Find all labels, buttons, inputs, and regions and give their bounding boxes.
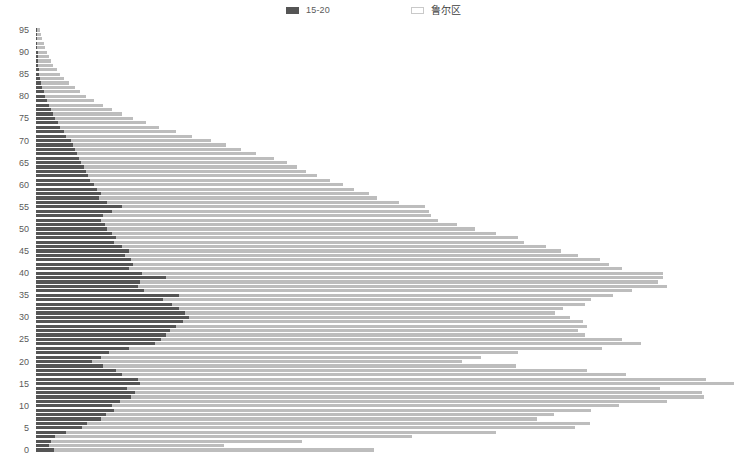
bar-row[interactable] (36, 272, 663, 275)
bar-row[interactable] (36, 413, 554, 416)
bar-row[interactable] (36, 64, 53, 67)
bar-row[interactable] (36, 219, 438, 222)
bar-row[interactable] (36, 351, 518, 354)
bar-row[interactable] (36, 42, 44, 45)
bar-row[interactable] (36, 33, 41, 36)
bar-row[interactable] (36, 90, 80, 93)
bar-row[interactable] (36, 205, 425, 208)
bar-row[interactable] (36, 360, 462, 363)
bar-row[interactable] (36, 130, 176, 133)
bar-row[interactable] (36, 342, 641, 345)
bar-row[interactable] (36, 86, 75, 89)
bar-row[interactable] (36, 254, 578, 257)
bar-row[interactable] (36, 258, 600, 261)
bar-row[interactable] (36, 431, 496, 434)
bar-row[interactable] (36, 426, 575, 429)
bar-row[interactable] (36, 210, 429, 213)
bar-row[interactable] (36, 227, 475, 230)
bar-segment-1 (170, 329, 578, 332)
bar-row[interactable] (36, 188, 354, 191)
bar-row[interactable] (36, 285, 667, 288)
bar-row[interactable] (36, 448, 374, 451)
bar-row[interactable] (36, 143, 226, 146)
bar-row[interactable] (36, 108, 112, 111)
bar-row[interactable] (36, 409, 591, 412)
bar-row[interactable] (36, 276, 663, 279)
bar-row[interactable] (36, 104, 103, 107)
bar-row[interactable] (36, 77, 64, 80)
bar-row[interactable] (36, 387, 660, 390)
bar-row[interactable] (36, 325, 587, 328)
legend-item-series-0[interactable]: 15-20 (286, 3, 330, 17)
bar-row[interactable] (36, 51, 47, 54)
bar-row[interactable] (36, 139, 211, 142)
bar-row[interactable] (36, 391, 702, 394)
bar-row[interactable] (36, 303, 585, 306)
bar-row[interactable] (36, 311, 555, 314)
bar-segment-1 (114, 241, 525, 244)
bar-row[interactable] (36, 165, 297, 168)
bar-row[interactable] (36, 382, 734, 385)
bar-row[interactable] (36, 320, 583, 323)
bar-row[interactable] (36, 170, 306, 173)
bar-row[interactable] (36, 37, 42, 40)
bar-row[interactable] (36, 117, 133, 120)
bar-row[interactable] (36, 28, 40, 31)
bar-row[interactable] (36, 369, 587, 372)
bar-row[interactable] (36, 294, 613, 297)
bar-row[interactable] (36, 333, 585, 336)
bar-row[interactable] (36, 289, 632, 292)
bar-row[interactable] (36, 157, 274, 160)
bar-row[interactable] (36, 245, 546, 248)
bar-row[interactable] (36, 236, 518, 239)
bar-row[interactable] (36, 161, 287, 164)
bar-row[interactable] (36, 81, 69, 84)
bar-row[interactable] (36, 378, 706, 381)
bar-row[interactable] (36, 232, 496, 235)
bar-row[interactable] (36, 112, 122, 115)
bar-row[interactable] (36, 241, 524, 244)
bar-row[interactable] (36, 267, 622, 270)
bar-row[interactable] (36, 298, 591, 301)
bar-row[interactable] (36, 214, 431, 217)
bar-row[interactable] (36, 201, 399, 204)
bar-row[interactable] (36, 356, 481, 359)
bar-row[interactable] (36, 59, 51, 62)
bar-row[interactable] (36, 135, 192, 138)
bar-row[interactable] (36, 307, 563, 310)
legend-item-series-1[interactable]: 鲁尔区 (411, 3, 462, 17)
bar-row[interactable] (36, 174, 317, 177)
bar-row[interactable] (36, 338, 622, 341)
bar-row[interactable] (36, 373, 626, 376)
bar-row[interactable] (36, 196, 377, 199)
bar-row[interactable] (36, 73, 60, 76)
bar-row[interactable] (36, 99, 94, 102)
bar-row[interactable] (36, 249, 561, 252)
bar-row[interactable] (36, 55, 49, 58)
bar-row[interactable] (36, 148, 241, 151)
bar-row[interactable] (36, 422, 590, 425)
bar-row[interactable] (36, 347, 602, 350)
bar-row[interactable] (36, 192, 369, 195)
bar-row[interactable] (36, 179, 330, 182)
bar-row[interactable] (36, 152, 256, 155)
bar-row[interactable] (36, 183, 343, 186)
bar-row[interactable] (36, 121, 146, 124)
bar-row[interactable] (36, 329, 578, 332)
bar-row[interactable] (36, 417, 537, 420)
bar-row[interactable] (36, 46, 45, 49)
bar-row[interactable] (36, 404, 619, 407)
bar-row[interactable] (36, 316, 570, 319)
bar-row[interactable] (36, 280, 658, 283)
bar-row[interactable] (36, 395, 704, 398)
bar-row[interactable] (36, 223, 457, 226)
bar-row[interactable] (36, 435, 412, 438)
bar-row[interactable] (36, 95, 86, 98)
bar-row[interactable] (36, 126, 159, 129)
bar-row[interactable] (36, 263, 609, 266)
bar-row[interactable] (36, 68, 57, 71)
bar-row[interactable] (36, 444, 224, 447)
bar-row[interactable] (36, 364, 516, 367)
bar-row[interactable] (36, 440, 302, 443)
bar-row[interactable] (36, 400, 667, 403)
